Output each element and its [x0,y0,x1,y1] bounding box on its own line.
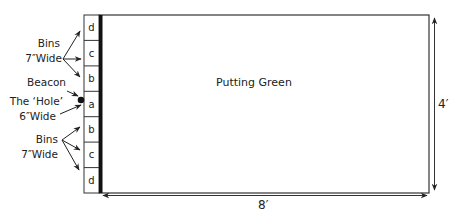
putting-green-area [99,15,429,193]
bin-c-top: c [89,48,95,59]
bin-b-top: b [88,73,94,84]
arrow-hole [60,105,81,114]
bin-b-bottom: b [88,124,94,135]
bins-top-label-line2: 7″Wide [25,52,62,64]
bins-top-label-line1: Bins [38,37,60,49]
bins-bottom-label-line1: Bins [36,133,58,145]
putting-green-label: Putting Green [216,76,292,89]
height-dimension-label: 4′ [438,97,449,111]
bins-bottom-label-line2: 7″Wide [21,148,58,160]
bin-d-top: d [88,22,94,33]
backstop-bar [99,15,103,193]
hole-label-line2: 6″Wide [19,110,56,122]
arrow-beacon [67,91,78,96]
hole-label-line1: The ‘Hole’ [9,95,63,107]
arrow-bins-top-b [63,59,80,77]
putting-green-diagram: Putting Green d c b a b c d Bins 7″Wide … [0,0,454,219]
beacon-icon [78,97,85,104]
bin-d-bottom: d [88,175,94,186]
bin-column: d c b a b c d [84,15,99,193]
arrow-bins-top-d [63,31,80,59]
beacon-label: Beacon [27,76,66,88]
width-dimension-label: 8′ [258,198,269,212]
bin-c-bottom: c [89,149,95,160]
bin-a-hole: a [88,99,94,110]
arrow-bins-bottom-b [62,127,80,140]
